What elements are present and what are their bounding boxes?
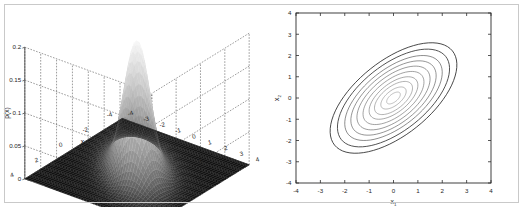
z-tick-label: 0.05 bbox=[9, 142, 22, 149]
x2-tick-label: 0 bbox=[58, 141, 64, 149]
contour-line bbox=[357, 66, 430, 130]
contour-line bbox=[387, 92, 401, 104]
surface-plot-svg: 00.050.10.150.2p(x)-4-3-2-101234x1420-2-… bbox=[0, 0, 262, 207]
x1-tick-label: 3 bbox=[239, 149, 245, 157]
svg-text:x2: x2 bbox=[273, 94, 282, 101]
x1-tick-label: 1 bbox=[207, 138, 213, 146]
z-tick-label: 0.1 bbox=[13, 109, 22, 116]
x2-tick-label: 2 bbox=[34, 156, 40, 164]
z-tick-label: 0.2 bbox=[13, 43, 22, 50]
y-axis-title: x2 bbox=[273, 94, 282, 101]
contour-plot-panel: -4-3-2-10123443210-1-2-3-4x1x2 bbox=[262, 0, 523, 207]
x-tick-label: -1 bbox=[366, 187, 372, 194]
surface-plot-panel: 00.050.10.150.2p(x)-4-3-2-101234x1420-2-… bbox=[0, 0, 262, 207]
x1-tick-label: -2 bbox=[159, 120, 167, 128]
contour-line bbox=[374, 81, 412, 114]
z-tick-label: 0.15 bbox=[9, 76, 22, 83]
contour-axes-box bbox=[296, 13, 491, 183]
x-tick-label: -3 bbox=[318, 187, 324, 194]
contour-line bbox=[363, 71, 424, 124]
grid-line bbox=[152, 33, 249, 93]
y-tick-label: -4 bbox=[286, 179, 292, 186]
y-tick-label: 0 bbox=[288, 94, 292, 101]
z-axis-title: p(x) bbox=[3, 107, 11, 118]
svg-text:x1: x1 bbox=[390, 198, 397, 207]
y-tick-label: -2 bbox=[286, 137, 292, 144]
figure-container: 00.050.10.150.2p(x)-4-3-2-101234x1420-2-… bbox=[0, 0, 523, 207]
x2-tick-label: -4 bbox=[106, 110, 114, 118]
y-tick-label: 2 bbox=[288, 52, 292, 59]
x-tick-label: 2 bbox=[441, 187, 445, 194]
y-tick-label: 4 bbox=[288, 9, 292, 16]
x1-tick-label: 0 bbox=[191, 132, 197, 140]
contour-lines bbox=[330, 43, 457, 153]
x-tick-label: 0 bbox=[392, 187, 396, 194]
z-tick bbox=[22, 179, 24, 180]
x-axis-title: x1 bbox=[390, 198, 397, 207]
y-tick-label: -1 bbox=[286, 116, 292, 123]
x1-tick-label: -1 bbox=[174, 126, 182, 134]
x-tick-label: 1 bbox=[416, 187, 420, 194]
x-tick-label: 4 bbox=[489, 187, 493, 194]
x-tick-label: -2 bbox=[342, 187, 348, 194]
x1-tick-label: 4 bbox=[255, 155, 261, 163]
svg-text:p(x): p(x) bbox=[3, 107, 11, 118]
x2-tick-label: 4 bbox=[9, 171, 15, 179]
y-tick-label: 1 bbox=[288, 73, 292, 80]
axes-frame bbox=[296, 13, 491, 183]
x2-tick-label: -2 bbox=[81, 125, 89, 133]
x-tick-label: 3 bbox=[465, 187, 469, 194]
grid-line bbox=[152, 66, 249, 126]
y-tick-label: -3 bbox=[286, 158, 292, 165]
contour-plot-svg: -4-3-2-10123443210-1-2-3-4x1x2 bbox=[262, 0, 523, 207]
y-tick-label: 3 bbox=[288, 31, 292, 38]
z-tick-label: 0 bbox=[18, 175, 22, 182]
contour-line bbox=[381, 87, 406, 109]
x-tick-label: -4 bbox=[293, 187, 299, 194]
contour-axis-labels: -4-3-2-10123443210-1-2-3-4x1x2 bbox=[273, 9, 493, 207]
contour-line bbox=[351, 61, 436, 135]
